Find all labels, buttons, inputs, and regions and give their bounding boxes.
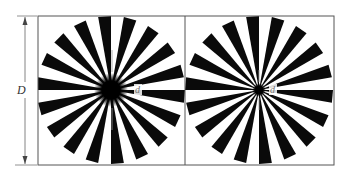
arrow-down-icon [23, 156, 28, 164]
siemens-star-figure: D d d [0, 0, 344, 178]
label-D: D [16, 83, 26, 97]
right-blur-disk [252, 83, 266, 97]
arrow-up-icon [23, 17, 28, 25]
spoke [259, 90, 316, 147]
left-blur-disk [94, 73, 128, 107]
spoke [202, 33, 259, 90]
dimension-D: D [12, 16, 37, 165]
